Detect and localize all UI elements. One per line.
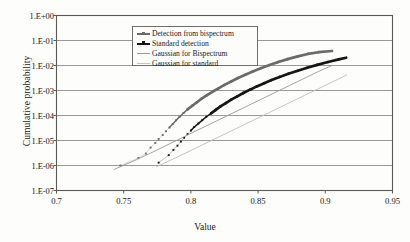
data-point bbox=[165, 130, 167, 132]
y-tick-label: 1.E-07 bbox=[8, 186, 54, 195]
data-point bbox=[168, 154, 170, 156]
legend-swatch-icon bbox=[136, 59, 151, 68]
legend-label: Gaussian for Bispectrum bbox=[151, 49, 228, 58]
data-point bbox=[158, 138, 160, 140]
x-tick-label: 0.7 bbox=[37, 196, 77, 206]
data-point bbox=[201, 119, 203, 121]
chart-legend: Detection from bispectrumStandard detect… bbox=[132, 26, 258, 66]
x-tick-label: 0.95 bbox=[373, 196, 410, 206]
data-point bbox=[183, 112, 185, 114]
data-point bbox=[197, 123, 199, 125]
data-point bbox=[177, 145, 179, 147]
data-point bbox=[172, 149, 174, 151]
data-point bbox=[150, 147, 152, 149]
series-2 bbox=[114, 66, 332, 170]
legend-label: Standard detection bbox=[151, 39, 209, 48]
data-point bbox=[191, 105, 193, 107]
series-0 bbox=[119, 51, 332, 166]
data-point bbox=[162, 134, 164, 136]
data-point bbox=[175, 119, 177, 121]
legend-swatch-icon bbox=[136, 29, 151, 38]
chart-figure: 1.E+001.E-011.E-021.E-031.E-041.E-051.E-… bbox=[0, 0, 410, 242]
data-point bbox=[172, 123, 174, 125]
data-point bbox=[145, 153, 147, 155]
legend-label: Gaussian for standard bbox=[151, 59, 218, 68]
data-point bbox=[215, 109, 217, 111]
data-point bbox=[210, 112, 212, 114]
data-point bbox=[180, 141, 182, 143]
y-axis-title: Cumulative probability bbox=[22, 26, 32, 176]
x-tick-label: 0.85 bbox=[238, 196, 278, 206]
legend-swatch-icon bbox=[136, 49, 151, 58]
data-point bbox=[154, 142, 156, 144]
legend-item: Detection from bispectrum bbox=[136, 29, 257, 39]
x-axis-tick-labels: 0.70.750.80.850.90.95 bbox=[0, 196, 410, 212]
legend-swatch-icon bbox=[136, 39, 151, 48]
x-tick-label: 0.9 bbox=[305, 196, 345, 206]
x-tick-label: 0.8 bbox=[171, 196, 211, 206]
data-point bbox=[187, 108, 189, 110]
data-point bbox=[168, 127, 170, 129]
x-axis-title: Value bbox=[0, 222, 410, 232]
y-tick-label: 1.E+00 bbox=[8, 11, 54, 20]
data-point bbox=[205, 116, 207, 118]
data-point bbox=[190, 130, 192, 132]
data-point bbox=[193, 126, 195, 128]
legend-item: Gaussian for standard bbox=[136, 59, 257, 69]
legend-item: Standard detection bbox=[136, 39, 257, 49]
legend-item: Gaussian for Bispectrum bbox=[136, 49, 257, 59]
x-tick-label: 0.75 bbox=[104, 196, 144, 206]
legend-label: Detection from bispectrum bbox=[151, 29, 234, 38]
data-point bbox=[158, 162, 160, 164]
data-point bbox=[179, 116, 181, 118]
